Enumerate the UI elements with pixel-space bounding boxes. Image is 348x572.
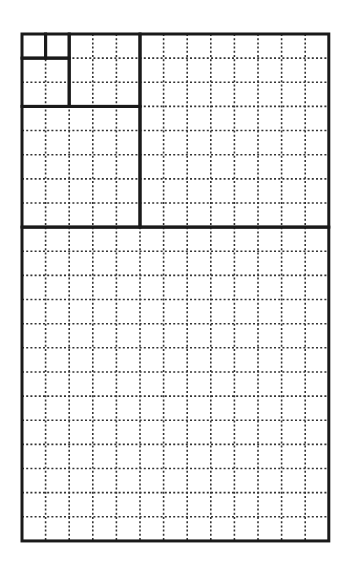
square-1a: [22, 34, 46, 58]
square-1b: [46, 34, 70, 58]
square-5: [22, 106, 140, 227]
dotted-grid-lines: [22, 34, 329, 541]
fibonacci-grid-diagram: [0, 0, 348, 572]
square-13: [22, 227, 329, 541]
fibonacci-squares: [22, 34, 329, 541]
square-3: [69, 34, 140, 106]
